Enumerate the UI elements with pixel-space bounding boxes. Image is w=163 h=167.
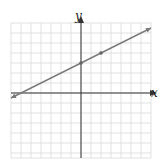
coordinate-plane: x y (0, 0, 163, 167)
y-axis-label: y (74, 9, 82, 23)
x-axis-label: x (151, 86, 158, 100)
